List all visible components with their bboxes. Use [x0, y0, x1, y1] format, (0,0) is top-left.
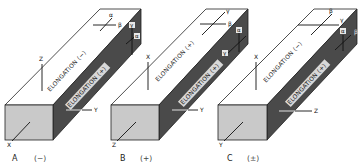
panel-a-side-cross-label-2: α: [135, 33, 139, 39]
panel-a-top-axis-label: Z: [39, 55, 43, 62]
panel-b-side-cross-label-1: α: [237, 27, 241, 33]
panel-a-caption-letter: A: [12, 154, 18, 163]
panel-c-top-cross-label-2: γ: [340, 16, 344, 24]
panel-c-caption-letter: C: [227, 154, 233, 163]
panel-a-top-cross-label-1: α: [109, 11, 113, 18]
panel-c-side-axis-label: Z: [314, 107, 318, 114]
panel-c-front-axis-label: Y: [218, 141, 223, 148]
panel-b-caption-letter: B: [120, 154, 126, 163]
panel-b-top-cross-label-1: γ: [226, 7, 230, 15]
panel-c-side-cross-label-2: β: [354, 28, 358, 36]
optic-sign-elongation-diagram: X Z Y α β γ α ELONGATION (−) ELONGATION …: [0, 0, 364, 168]
panel-b-side-axis-label: Y: [199, 106, 204, 113]
panel-a-caption-sign: (−): [34, 154, 46, 163]
panel-c-side-cross-label-1: α: [341, 28, 345, 34]
panel-c-top-cross-label-1: β: [329, 7, 333, 15]
panel-c-caption-sign: (±): [247, 154, 259, 163]
panel-b-caption-sign: (+): [140, 154, 152, 163]
panel-b-front-axis-label: Z: [112, 141, 116, 148]
panel-b-top-cross-label-2: β: [228, 20, 232, 28]
panel-c-top-axis-label: X: [254, 53, 258, 60]
panel-a-side-axis-label: Y: [93, 106, 98, 113]
panel-a-front-axis-label: X: [7, 141, 11, 148]
panel-b-top-axis-label: X: [146, 53, 150, 60]
panel-a-top-cross-label-2: β: [118, 21, 122, 29]
